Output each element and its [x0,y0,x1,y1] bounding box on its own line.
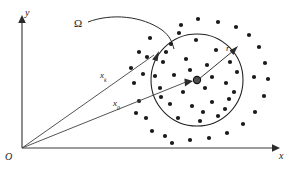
sample-point-outside [134,111,138,115]
sample-point-outside [234,25,238,29]
sample-point-inside [184,57,188,61]
sample-point-outside [257,45,261,49]
sample-point-inside [235,70,239,74]
sample-point-outside [179,23,183,27]
radius-line [199,51,233,79]
sample-point-outside [170,141,174,145]
vector-x0-arrowhead [184,79,193,87]
sample-point-outside [207,136,211,140]
sample-point-inside [161,60,165,64]
sample-point-inside [210,75,214,79]
sample-point-inside [203,86,207,90]
sample-point-outside [216,20,220,24]
sample-point-outside [144,116,148,120]
sample-point-outside [129,66,133,70]
sample-point-inside [177,31,181,35]
omega-leader-group [88,17,174,49]
sample-point-outside [262,94,266,98]
origin-label: O [5,152,12,162]
sample-point-inside [159,95,163,99]
sample-point-inside [181,90,185,94]
vector-xk-label: xk [100,71,106,82]
sample-point-outside [132,81,136,85]
sample-point-outside [163,134,167,138]
vector-x0-subscript: 0 [117,105,120,111]
omega-leader-curve [88,17,174,49]
vectors-group [22,51,193,148]
sample-point-outside [188,138,192,142]
sample-point-inside [190,104,194,108]
sample-point-inside [198,119,202,123]
sample-point-outside [150,129,154,133]
x-axis-label: x [279,151,283,161]
sample-point-outside [253,110,257,114]
sample-point-outside [141,72,145,76]
figure-canvas: Ω y x O xk x0 r [0,0,295,171]
sample-point-inside [194,38,198,42]
diagram-svg [0,0,295,171]
axes-group [18,15,280,152]
sample-point-inside [210,100,214,104]
region-label-omega: Ω [74,18,82,29]
sample-point-outside [148,36,152,40]
sample-point-outside [266,77,270,81]
vector-x0-label: x0 [113,99,120,110]
sample-point-inside [223,107,227,111]
sample-point-inside [169,42,173,46]
sample-point-inside [188,68,192,72]
sample-point-inside [228,60,232,64]
sample-point-outside [247,33,251,37]
sample-point-outside [196,17,200,21]
sample-point-outside [225,131,229,135]
sample-point-inside [227,97,231,101]
radius-arrowhead [230,46,238,55]
sample-point-outside [241,122,245,126]
vector-xk-subscript: k [104,77,106,83]
sample-point-inside [205,63,209,67]
sample-point-outside [252,75,256,79]
sample-point-inside [214,48,218,52]
sample-point-inside [168,102,172,106]
radius-label: r [226,44,230,53]
sample-point-inside [232,90,236,94]
sample-point-inside [158,86,162,90]
sample-point-inside [172,73,176,77]
vector-x0-line [22,82,186,148]
circle-center-point [193,76,200,83]
sample-point-outside [137,50,141,54]
sample-point-inside [176,116,180,120]
sample-point-inside [224,81,228,85]
sample-point-inside [164,50,168,54]
sample-point-inside [201,110,205,114]
y-axis-label: y [25,8,29,18]
vector-xk-line [22,55,154,148]
sample-point-inside [216,114,220,118]
sample-point-outside [263,61,267,65]
sample-point-inside [153,74,157,78]
